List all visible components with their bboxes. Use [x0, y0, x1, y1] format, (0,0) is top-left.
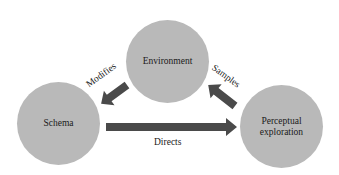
node-perceptual-exploration: Perceptual exploration: [240, 85, 323, 168]
node-schema: Schema: [17, 82, 100, 165]
directs-arrow: [106, 118, 237, 136]
perceptual-cycle-diagram: Environment Schema Perceptual exploratio…: [0, 0, 339, 175]
modifies-arrow: [96, 78, 132, 111]
node-environment-label: Environment: [143, 56, 193, 67]
edge-label-directs: Directs: [154, 137, 181, 147]
node-environment: Environment: [126, 20, 209, 103]
node-perceptual-exploration-label: Perceptual exploration: [260, 116, 303, 138]
node-schema-label: Schema: [43, 118, 73, 129]
